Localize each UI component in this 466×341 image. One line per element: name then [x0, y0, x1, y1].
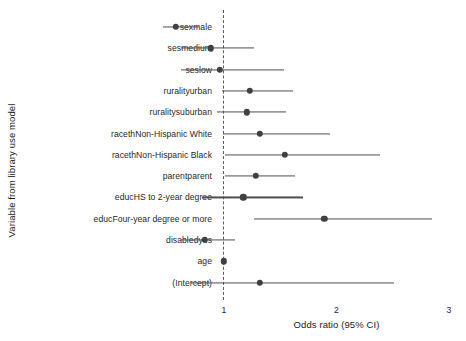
point-estimate-marker — [252, 173, 258, 179]
confidence-interval-line — [181, 239, 235, 240]
point-estimate-marker — [172, 24, 178, 30]
y-axis-tick-label: racethNon-Hispanic Black — [112, 150, 212, 160]
confidence-interval-line — [191, 282, 394, 283]
x-axis-tick-label: 3 — [447, 305, 452, 315]
point-estimate-marker — [240, 194, 246, 200]
point-estimate-marker — [282, 152, 288, 158]
confidence-interval-line — [181, 48, 254, 49]
point-estimate-marker — [243, 109, 249, 115]
confidence-interval-line — [225, 154, 380, 155]
confidence-interval-line — [181, 69, 283, 70]
y-axis-tick-label: educFour-year degree or more — [94, 214, 212, 224]
y-axis-tick-label: racethNon-Hispanic White — [111, 129, 212, 139]
confidence-interval-line — [225, 176, 295, 177]
point-estimate-marker — [257, 279, 263, 285]
y-axis-tick-label: parentparent — [163, 171, 212, 181]
point-estimate-marker — [207, 45, 213, 51]
confidence-interval-line — [222, 90, 293, 91]
point-estimate-marker — [247, 88, 253, 94]
y-axis-tick-label: educHS to 2-year degree — [115, 192, 212, 202]
confidence-interval-line — [223, 133, 330, 134]
confidence-interval-line — [202, 197, 303, 198]
plot-panel: sexmalesesmediumseslowruralityurbanrural… — [0, 0, 466, 341]
point-estimate-marker — [216, 66, 222, 72]
x-axis-tick-label: 1 — [222, 305, 227, 315]
point-estimate-marker — [257, 130, 263, 136]
confidence-interval-line — [217, 112, 286, 113]
point-estimate-marker — [321, 215, 327, 221]
y-axis-tick-label: ruralityurban — [164, 86, 212, 96]
y-axis-tick-label: ruralitysuburban — [150, 107, 212, 117]
confidence-interval-line — [254, 218, 432, 219]
x-axis-title: Odds ratio (95% CI) — [294, 319, 380, 330]
point-estimate-marker — [221, 258, 227, 264]
x-axis-tick-label: 2 — [334, 305, 339, 315]
y-axis-tick-label: age — [198, 256, 213, 266]
forest-plot-figure: Variable from library use model sexmales… — [0, 0, 466, 341]
confidence-interval-line — [163, 26, 199, 27]
